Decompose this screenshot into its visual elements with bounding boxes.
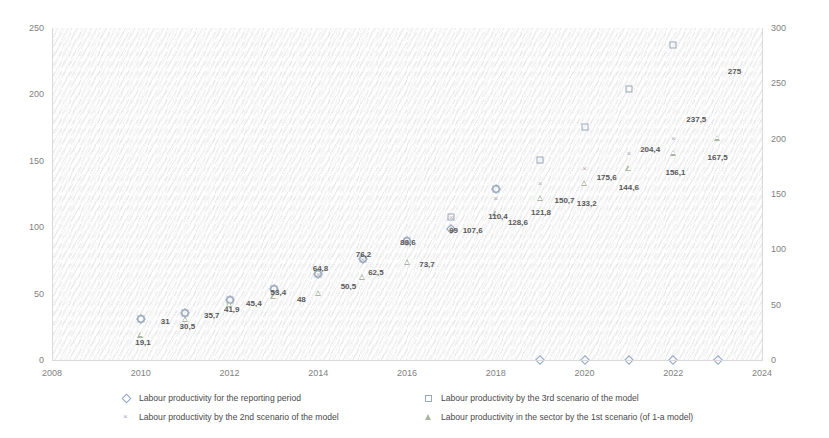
data-point-label: 156,1 (665, 169, 685, 177)
legend-item[interactable]: Labour productivity for the reporting pe… (120, 388, 339, 407)
data-point-triangle (670, 150, 676, 156)
data-point-cross (448, 214, 455, 221)
data-point-label: 167,5 (708, 154, 728, 162)
data-point-label: 62,5 (368, 269, 384, 277)
y-axis-right-tick-label: 0 (771, 356, 776, 365)
data-point-triangle (360, 274, 366, 280)
data-point-square (137, 315, 144, 322)
data-point-triangle (404, 259, 410, 265)
legend-item[interactable]: ×Labour productivity by the 2nd scenario… (120, 407, 339, 426)
y-axis-left-tick-label: 200 (10, 90, 44, 99)
data-point-label: 31 (161, 318, 170, 326)
x-axis-tick-label: 2022 (663, 369, 683, 378)
data-point-label: 50,5 (341, 283, 357, 291)
legend-item[interactable]: Labour productivity by the 3rd scenario … (422, 388, 693, 407)
data-point-triangle (626, 165, 632, 171)
data-point-diamond (136, 314, 146, 324)
data-point-square (492, 186, 499, 193)
x-axis-tick-label: 2016 (397, 369, 417, 378)
x-axis-tick-label: 2020 (574, 369, 594, 378)
data-point-triangle (537, 195, 543, 201)
y-axis-left-tick-label: 150 (10, 156, 44, 165)
data-point-cross (581, 164, 588, 171)
data-point-label: 133,2 (577, 200, 597, 208)
y-axis-left-tick-label: 50 (10, 289, 44, 298)
data-point-label: 107,6 (463, 227, 483, 235)
x-axis-tick-label: 2010 (131, 369, 151, 378)
data-point-label: 175,6 (597, 174, 617, 182)
data-point-label: 128,6 (508, 219, 528, 227)
x-axis-tick-label: 2018 (486, 369, 506, 378)
data-point-square (537, 156, 544, 163)
data-point-label: 275 (728, 68, 741, 76)
y-axis-right-tick-label: 150 (771, 190, 786, 199)
plot-area: 19,13130,535,741,945,453,44864,850,576,2… (52, 28, 762, 360)
x-axis-tick-label: 2014 (308, 369, 328, 378)
data-point-triangle (315, 290, 321, 296)
data-point-triangle (715, 135, 721, 141)
data-point-label: 76,2 (356, 251, 372, 259)
plot-background-texture (52, 28, 762, 360)
y-axis-right-tick-label: 50 (771, 300, 781, 309)
data-point-cross (537, 180, 544, 187)
y-axis-right-tick-label: 300 (771, 24, 786, 33)
y-axis-right-tick-label: 200 (771, 134, 786, 143)
data-point-label: 150,7 (555, 197, 575, 205)
data-point-label: 53,4 (271, 289, 287, 297)
square-icon (422, 393, 436, 403)
y-axis-right-tick-label: 100 (771, 245, 786, 254)
data-point-label: 35,7 (204, 312, 220, 320)
data-point-triangle (138, 332, 144, 338)
triangle-icon (422, 412, 436, 422)
data-point-label: 99 (449, 227, 458, 235)
x-axis-tick-label: 2008 (42, 369, 62, 378)
y-axis-left-tick-label: 250 (10, 24, 44, 33)
data-point-label: 19,1 (135, 339, 151, 347)
y-axis-left-tick-label: 100 (10, 223, 44, 232)
data-point-label: 110,4 (488, 213, 508, 221)
legend-item-label: Labour productivity by the 3rd scenario … (441, 393, 639, 403)
data-point-cross (492, 195, 499, 202)
legend-item[interactable]: Labour productivity in the sector by the… (422, 407, 693, 426)
data-point-label: 144,6 (619, 184, 639, 192)
data-point-label: 204,4 (640, 146, 660, 154)
data-point-square (448, 214, 455, 221)
data-point-square (670, 41, 677, 48)
data-point-square (581, 123, 588, 130)
diamond-icon (120, 393, 134, 403)
legend-column-right: Labour productivity by the 3rd scenario … (422, 388, 693, 426)
x-axis-tick-label: 2024 (752, 369, 772, 378)
legend-item-label: Labour productivity for the reporting pe… (139, 393, 301, 403)
data-point-label: 73,7 (419, 261, 435, 269)
scatter-chart: 19,13130,535,741,945,453,44864,850,576,2… (0, 0, 829, 438)
data-point-square (625, 85, 632, 92)
x-axis-line (52, 360, 763, 361)
x-axis-tick-label: 2012 (219, 369, 239, 378)
data-point-label: 45,4 (246, 300, 262, 308)
data-point-label: 237,5 (686, 116, 706, 124)
y-axis-right-line (762, 28, 763, 360)
data-point-label: 30,5 (180, 323, 196, 331)
data-point-label: 121,8 (531, 209, 551, 217)
legend-column-left: Labour productivity for the reporting pe… (120, 388, 339, 426)
data-point-cross (670, 134, 677, 141)
data-point-label: 64,8 (313, 265, 329, 273)
data-point-label: 89,6 (400, 239, 416, 247)
legend-item-label: Labour productivity in the sector by the… (441, 412, 693, 422)
y-axis-left-line (52, 28, 53, 360)
data-point-cross (625, 149, 632, 156)
data-point-diamond (491, 184, 501, 194)
y-axis-right-tick-label: 250 (771, 79, 786, 88)
cross-icon: × (120, 412, 134, 422)
data-point-square (226, 296, 233, 303)
y-axis-left-tick-label: 0 (10, 356, 44, 365)
data-point-triangle (582, 180, 588, 186)
data-point-diamond (180, 308, 190, 318)
legend-item-label: Labour productivity by the 2nd scenario … (139, 412, 339, 422)
data-point-square (182, 309, 189, 316)
chart-legend: Labour productivity for the reporting pe… (52, 388, 812, 432)
data-point-label: 41,9 (224, 306, 240, 314)
data-point-diamond (225, 295, 235, 305)
data-point-label: 48 (297, 296, 306, 304)
